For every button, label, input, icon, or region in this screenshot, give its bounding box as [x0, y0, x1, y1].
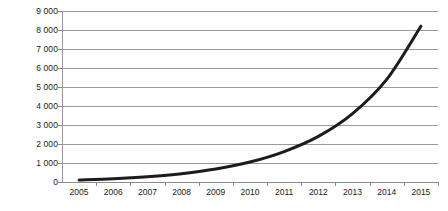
y-tick-mark: [58, 49, 62, 50]
y-tick-mark: [58, 30, 62, 31]
y-tick-mark: [58, 125, 62, 126]
y-tick-mark: [58, 144, 62, 145]
y-tick-mark: [58, 68, 62, 69]
y-tick-mark: [58, 106, 62, 107]
y-tick-mark: [58, 182, 62, 183]
y-tick-mark: [58, 11, 62, 12]
y-tick-mark: [58, 163, 62, 164]
line-chart: 01 0002 0003 0004 0005 0006 0007 0008 00…: [0, 0, 448, 211]
x-tick-mark: [96, 182, 97, 186]
x-tick-mark: [130, 182, 131, 186]
x-tick-mark: [199, 182, 200, 186]
x-tick-mark: [301, 182, 302, 186]
y-tick-mark: [58, 87, 62, 88]
x-tick-mark: [370, 182, 371, 186]
x-tick-mark: [438, 182, 439, 186]
x-tick-mark: [404, 182, 405, 186]
x-tick-mark: [335, 182, 336, 186]
x-tick-mark: [233, 182, 234, 186]
series-line: [0, 0, 448, 211]
x-axis: 2005200620072008200920102011201220132014…: [62, 188, 438, 206]
x-tick-label: 2015: [401, 188, 441, 197]
x-tick-mark: [165, 182, 166, 186]
series-path: [79, 26, 421, 180]
x-tick-mark: [267, 182, 268, 186]
